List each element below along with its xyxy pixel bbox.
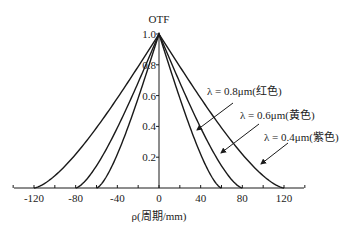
y-tick-label: 0.6 <box>142 90 156 102</box>
x-tick-label: 120 <box>276 192 293 204</box>
x-tick-label: -120 <box>24 192 45 204</box>
y-tick-label: 0.2 <box>142 151 156 163</box>
annotation-arrow-0 <box>197 103 233 130</box>
annotation-violet-0.4um: λ = 0.4μm(紫色) <box>264 130 339 144</box>
y-tick-label: 0.4 <box>142 120 156 132</box>
otf-chart: -120-80-40040801200.20.40.60.81.0 OTF ρ(… <box>0 0 354 235</box>
annotation-red-0.8um: λ = 0.8μm(红色) <box>207 84 282 98</box>
x-tick-label: -40 <box>110 192 125 204</box>
x-tick-label: 0 <box>156 192 162 204</box>
x-tick-label: 40 <box>195 192 207 204</box>
y-axis-title: OTF <box>149 13 170 25</box>
annotation-arrow-1 <box>221 124 259 153</box>
x-axis-title: ρ(周期/mm) <box>132 210 187 223</box>
annotation-arrow-2 <box>261 143 288 164</box>
x-tick-label: -80 <box>68 192 83 204</box>
x-tick-label: 80 <box>237 192 249 204</box>
y-tick-label: 1.0 <box>142 28 156 40</box>
annotation-yellow-0.6um: λ = 0.6μm(黄色) <box>240 108 315 122</box>
